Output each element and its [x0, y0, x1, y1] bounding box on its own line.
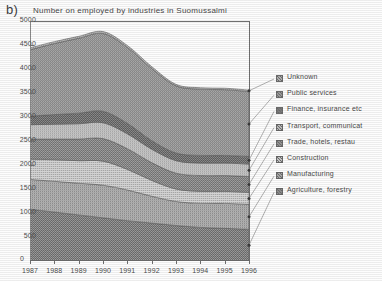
legend-leader-line: [249, 111, 274, 160]
chart-figure: b) Number on employed by industries in S…: [0, 0, 382, 281]
legend-swatch: [276, 140, 283, 147]
legend-leader-line: [249, 160, 274, 199]
legend-leader-line: [249, 192, 274, 245]
plot-border-bottom: [30, 260, 250, 261]
x-axis-tick-label: 1996: [234, 267, 264, 274]
legend-leader-line: [249, 128, 274, 171]
y-axis-tick-mark: [30, 165, 34, 166]
legend-label: Finance, insurance etc: [287, 105, 362, 112]
legend-item[interactable]: Finance, insurance etc: [276, 104, 382, 120]
x-axis-tick-mark: [249, 260, 250, 264]
legend-swatch: [276, 75, 283, 82]
panel-label: b): [6, 2, 18, 17]
x-axis-tick-mark: [54, 260, 55, 264]
legend-label: Agriculture, forestry: [287, 186, 352, 193]
x-axis-tick-mark: [127, 260, 128, 264]
legend-item[interactable]: Trade, hotels, restau: [276, 137, 382, 153]
legend-swatch: [276, 91, 283, 98]
legend-swatch: [276, 156, 283, 163]
y-axis-tick-mark: [30, 69, 34, 70]
legend-swatch: [276, 124, 283, 131]
y-axis-tick-mark: [30, 189, 34, 190]
chart-title: Number on employed by industries in Suom…: [33, 6, 227, 15]
y-axis-tick-mark: [30, 237, 34, 238]
y-axis-tick-mark: [30, 117, 34, 118]
legend-item[interactable]: Transport, communicat: [276, 121, 382, 137]
legend-label: Trade, hotels, restau: [287, 138, 355, 145]
legend-label: Manufacturing: [287, 170, 334, 177]
legend-label: Construction: [287, 154, 329, 161]
y-axis-tick-label: 0: [20, 255, 24, 262]
legend-swatch: [276, 172, 283, 179]
x-axis-tick-mark: [79, 260, 80, 264]
legend-item[interactable]: Public services: [276, 88, 382, 104]
legend-item[interactable]: Unknown: [276, 72, 382, 88]
plot-border-top: [30, 21, 250, 22]
legend-label: Unknown: [287, 73, 318, 80]
y-axis-tick-mark: [30, 93, 34, 94]
legend-leader-line: [249, 144, 274, 185]
legend-label: Public services: [287, 89, 337, 96]
x-axis-tick-mark: [30, 260, 31, 264]
legend-item[interactable]: Manufacturing: [276, 169, 382, 185]
legend-item[interactable]: Construction: [276, 153, 382, 169]
chart-legend: UnknownPublic servicesFinance, insurance…: [276, 72, 382, 202]
y-axis-tick-mark: [30, 21, 34, 22]
legend-item[interactable]: Agriculture, forestry: [276, 185, 382, 201]
plot-border-right: [249, 21, 250, 261]
legend-swatch: [276, 188, 283, 195]
legend-label: Transport, communicat: [287, 122, 363, 129]
legend-swatch: [276, 107, 283, 114]
plot-area: 5001000150020002500300035004000450050000…: [30, 21, 250, 261]
x-axis-tick-mark: [103, 260, 104, 264]
legend-leader-line: [249, 176, 274, 217]
x-axis-tick-mark: [152, 260, 153, 264]
stacked-area-series: [30, 21, 250, 261]
x-axis-tick-mark: [176, 260, 177, 264]
y-axis-tick-mark: [30, 213, 34, 214]
x-axis-tick-mark: [225, 260, 226, 264]
legend-leader-line: [249, 95, 274, 124]
y-axis-tick-mark: [30, 45, 34, 46]
y-axis-tick-mark: [30, 141, 34, 142]
x-axis-tick-mark: [200, 260, 201, 264]
legend-leader-line: [249, 79, 274, 91]
